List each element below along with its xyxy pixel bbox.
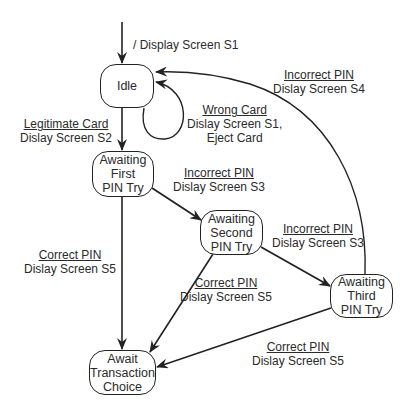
state-line: Awaiting <box>208 212 255 226</box>
label-idle-self: Wrong Card Dislay Screen S1, Eject Card <box>187 103 282 145</box>
action-screen-s2: Dislay Screen S2 <box>20 131 112 145</box>
state-awaiting-first-pin-try: Awaiting First PIN Try <box>92 151 154 197</box>
state-line: Second <box>210 226 252 240</box>
event-wrong-card: Wrong Card <box>202 103 266 117</box>
event-incorrect-pin: Incorrect PIN <box>283 222 353 236</box>
action-screen-s3: Dislay Screen S3 <box>173 180 265 194</box>
label-second-to-third: Incorrect PIN Dislay Screen S3 <box>272 222 364 250</box>
action-screen-s1: Dislay Screen S1, <box>187 117 282 131</box>
state-awaiting-second-pin-try: Awaiting Second PIN Try <box>200 210 263 255</box>
label-idle-to-first: Legitimate Card Dislay Screen S2 <box>20 117 112 145</box>
label-second-to-transaction: Correct PIN Dislay Screen S5 <box>180 276 272 304</box>
action-screen-s3: Dislay Screen S3 <box>272 236 364 250</box>
state-line: PIN Try <box>102 181 144 195</box>
state-line: Await <box>107 352 137 366</box>
state-line: PIN Try <box>211 240 253 254</box>
label-first-to-second: Incorrect PIN Dislay Screen S3 <box>173 166 265 194</box>
label-initial: / Display Screen S1 <box>133 38 238 52</box>
event-incorrect-pin: Incorrect PIN <box>184 166 254 180</box>
label-third-to-idle: Incorrect PIN Dislay Screen S4 <box>273 68 365 96</box>
state-line: Transaction <box>90 366 155 380</box>
state-line: Awaiting <box>99 153 146 167</box>
state-idle: Idle <box>100 64 154 108</box>
action-screen-s5: Dislay Screen S5 <box>24 262 116 276</box>
state-line: Choice <box>103 380 142 394</box>
state-line: Third <box>347 289 375 303</box>
label-first-to-transaction: Correct PIN Dislay Screen S5 <box>24 248 116 276</box>
action-screen-s5: Dislay Screen S5 <box>252 354 344 368</box>
label-third-to-transaction: Correct PIN Dislay Screen S5 <box>252 340 344 368</box>
event-correct-pin: Correct PIN <box>195 276 258 290</box>
event-incorrect-pin: Incorrect PIN <box>284 68 354 82</box>
transition-arrows <box>0 0 415 413</box>
action-eject-card: Eject Card <box>187 131 282 145</box>
state-awaiting-third-pin-try: Awaiting Third PIN Try <box>330 274 393 318</box>
action-screen-s5: Dislay Screen S5 <box>180 290 272 304</box>
state-line: Awaiting <box>338 275 385 289</box>
event-correct-pin: Correct PIN <box>267 340 330 354</box>
event-correct-pin: Correct PIN <box>39 248 102 262</box>
action-screen-s4: Dislay Screen S4 <box>273 82 365 96</box>
state-line: First <box>111 167 135 181</box>
state-line: PIN Try <box>341 303 383 317</box>
event-legitimate-card: Legitimate Card <box>24 117 109 131</box>
state-idle-label: Idle <box>117 79 137 93</box>
state-await-transaction-choice: Await Transaction Choice <box>89 350 156 395</box>
initial-action: / Display Screen S1 <box>133 38 238 52</box>
